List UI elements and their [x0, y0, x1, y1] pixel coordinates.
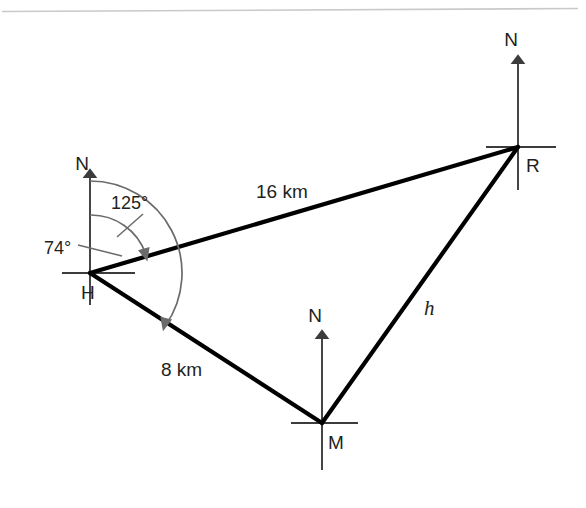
- vertex-label-h: H: [81, 282, 95, 303]
- north-arrow-r: N: [486, 29, 556, 190]
- vertex-label-m: M: [328, 432, 344, 453]
- side-label-mr: h: [424, 296, 435, 320]
- side-label-hr: 16 km: [256, 181, 308, 202]
- side-hr: [90, 147, 518, 273]
- north-label-m: N: [308, 305, 322, 326]
- angle-label-125: 125°: [111, 193, 148, 213]
- vertex-label-r: R: [526, 155, 540, 176]
- side-hm: [90, 273, 322, 423]
- top-divider: [2, 9, 578, 12]
- north-arrow-h: N: [62, 153, 135, 305]
- leader-74: [78, 245, 122, 256]
- side-mr: [322, 147, 518, 423]
- leader-125: [117, 214, 143, 237]
- north-label-h: N: [75, 153, 89, 174]
- bearings-diagram: N N N 74° 125° H R M 16 km 8 km h: [0, 0, 586, 508]
- angle-label-74: 74°: [44, 238, 71, 258]
- angle-arc-125: 125°: [90, 181, 182, 331]
- north-label-r: N: [504, 29, 518, 50]
- side-label-hm: 8 km: [161, 359, 202, 380]
